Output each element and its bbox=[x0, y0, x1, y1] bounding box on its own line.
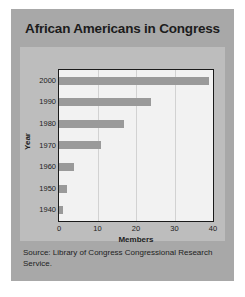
y-tick-1970: 1970 bbox=[26, 140, 56, 149]
x-tick-10: 10 bbox=[93, 224, 101, 233]
chart-figure: African Americans in Congress Year 19401… bbox=[0, 0, 245, 297]
y-tick-2000: 2000 bbox=[26, 75, 56, 84]
y-tick-1940: 1940 bbox=[26, 205, 56, 214]
source-note: Source: Library of Congress Congressiona… bbox=[23, 247, 223, 269]
x-tick-30: 30 bbox=[170, 224, 178, 233]
bar-row bbox=[59, 92, 213, 114]
bar-row bbox=[59, 199, 213, 221]
y-tick-1990: 1990 bbox=[26, 97, 56, 106]
bar-1950 bbox=[59, 185, 67, 193]
bar-row bbox=[59, 70, 213, 92]
bar-1990 bbox=[59, 98, 151, 106]
bar-row bbox=[59, 156, 213, 178]
bar-1960 bbox=[59, 163, 74, 171]
bar-1940 bbox=[59, 206, 63, 214]
y-tick-1950: 1950 bbox=[26, 183, 56, 192]
x-tick-0: 0 bbox=[57, 224, 61, 233]
x-axis-title: Members bbox=[58, 235, 214, 244]
chart-card: African Americans in Congress Year 19401… bbox=[11, 9, 234, 281]
bar-1970 bbox=[59, 141, 101, 149]
chart-title: African Americans in Congress bbox=[11, 21, 234, 36]
x-tick-40: 40 bbox=[209, 224, 217, 233]
y-tick-1980: 1980 bbox=[26, 118, 56, 127]
y-tick-1960: 1960 bbox=[26, 162, 56, 171]
x-tick-20: 20 bbox=[132, 224, 140, 233]
bar-2000 bbox=[59, 77, 209, 85]
y-axis-tick-labels: 1940195019601970198019902000 bbox=[23, 69, 56, 222]
bar-row bbox=[59, 135, 213, 157]
bar-1980 bbox=[59, 120, 124, 128]
bar-row bbox=[59, 178, 213, 200]
plot-area bbox=[58, 69, 214, 222]
bar-row bbox=[59, 113, 213, 135]
